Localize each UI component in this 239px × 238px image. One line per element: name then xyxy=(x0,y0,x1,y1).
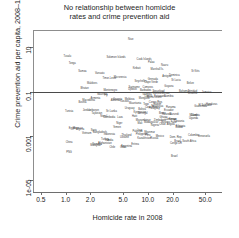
data-point-label: Tonga xyxy=(69,63,76,66)
x-tick-label: 5.0 xyxy=(110,196,136,203)
x-tick-mark xyxy=(173,192,174,195)
data-point-label: Cape Verde xyxy=(144,82,158,85)
data-point-label: PNG xyxy=(66,151,72,154)
x-axis-label: Homicide rate in 2008 xyxy=(33,213,222,222)
data-point-label: Vietnam xyxy=(82,133,91,136)
data-point-label: Yemen xyxy=(113,127,121,130)
data-point-label: Brazil xyxy=(171,156,178,159)
y-tick-label: 10 xyxy=(25,47,32,75)
data-point-label: Venezuela xyxy=(198,135,210,138)
data-point-label: St Kitts xyxy=(191,70,199,73)
x-tick-mark xyxy=(41,192,42,195)
data-point-label: Kazakhstan xyxy=(137,138,151,141)
data-point-label: Sri Lanka xyxy=(106,111,117,114)
data-point-label: Jamaica xyxy=(202,91,212,94)
data-point-label: Bhutan xyxy=(80,88,88,91)
data-point-label: Timor-Leste xyxy=(102,78,116,81)
data-point-label: Chile xyxy=(109,146,115,149)
data-point-label: Maldives xyxy=(87,83,97,86)
data-point-label: Mongolia xyxy=(139,97,150,100)
chart-title-line-2: rates and crime prevention aid xyxy=(0,12,239,21)
data-point-label: Solomon Islands xyxy=(106,56,125,59)
data-point-label: Angola xyxy=(167,124,175,127)
data-point-label: South Africa xyxy=(182,140,196,143)
data-point-label: China xyxy=(66,142,73,145)
data-point-label: Paraguay xyxy=(149,107,160,110)
chart-title: No relationship between homicide rates a… xyxy=(0,3,239,22)
data-point-label: Indonesia xyxy=(104,134,115,137)
chart-figure: No relationship between homicide rates a… xyxy=(0,0,239,238)
y-tick-label: 0.1 xyxy=(25,91,32,119)
data-point-label: Haiti xyxy=(132,115,137,118)
x-tick-mark xyxy=(123,192,124,195)
data-point-label: Eritrea xyxy=(131,144,139,147)
data-point-label: Egypt xyxy=(69,128,76,131)
data-point-label: Vanuatu xyxy=(95,73,104,76)
data-point-label: Cook Islands xyxy=(137,59,152,62)
data-point-label: Ukraine xyxy=(120,137,129,140)
data-point-label: Fiji xyxy=(104,95,107,98)
data-point-label: Tunisia xyxy=(65,111,73,114)
x-tick-label: 50.0 xyxy=(192,196,218,203)
data-point-label: Nauru xyxy=(161,64,168,67)
data-point-label: Laos xyxy=(117,117,123,120)
data-point-label: Mali xyxy=(137,122,142,125)
data-point-label: Samoa xyxy=(78,71,86,74)
data-point-label: Senegal xyxy=(138,112,148,115)
data-point-label: Uganda xyxy=(189,118,198,121)
y-tick-label: 1e-05 xyxy=(25,180,32,208)
x-tick-mark xyxy=(90,192,91,195)
data-point-label: Albania xyxy=(111,100,120,103)
data-point-label: Belize xyxy=(187,83,194,86)
data-point-label: Russia xyxy=(150,137,158,140)
x-tick-label: 0.5 xyxy=(28,196,54,203)
data-point-label: Congo DR xyxy=(170,143,182,146)
data-point-label: Guatemala xyxy=(194,105,207,108)
data-point-label: Antigua xyxy=(162,76,171,79)
data-point-label: Dom. Rep. xyxy=(170,136,182,139)
x-tick-mark xyxy=(205,192,206,195)
x-tick-label: 10.0 xyxy=(135,196,161,203)
data-point-label: Cambodia xyxy=(103,116,115,119)
data-point-label: Mauritania xyxy=(129,103,141,106)
data-point-label: Lesotho xyxy=(188,93,197,96)
data-point-label: Marshall Is. xyxy=(151,69,164,72)
data-point-label: Malaysia xyxy=(90,145,100,148)
x-axis-line xyxy=(33,192,222,193)
data-point-label: Tuvalu xyxy=(64,56,72,59)
data-point-label: Kosovo xyxy=(120,101,129,104)
plot-area xyxy=(33,30,222,192)
data-point-label: Djibouti xyxy=(128,88,137,91)
data-point-label: Cuba xyxy=(120,147,126,150)
data-point-label: Guyana xyxy=(164,85,173,88)
data-point-label: Nigeria xyxy=(151,125,159,128)
y-axis-label: Crime prevention aid per capita, 2008–10… xyxy=(13,0,22,137)
data-point-label: Bosnia xyxy=(78,101,86,104)
x-tick-mark xyxy=(148,192,149,195)
data-point-label: St Lucia xyxy=(171,80,180,83)
x-tick-mark xyxy=(66,192,67,195)
data-point-label: Chad xyxy=(159,123,165,126)
x-tick-label: 2.0 xyxy=(77,196,103,203)
chart-title-line-1: No relationship between homicide xyxy=(0,3,239,12)
data-point-label: Kiribati xyxy=(133,67,141,70)
y-tick-label: 0.001 xyxy=(25,136,32,164)
data-point-label: Palau xyxy=(148,61,155,64)
x-tick-label: 20.0 xyxy=(160,196,186,203)
x-tick-label: 1.0 xyxy=(53,196,79,203)
data-point-label: Niue xyxy=(128,39,133,42)
data-point-label: Sudan xyxy=(175,126,183,129)
